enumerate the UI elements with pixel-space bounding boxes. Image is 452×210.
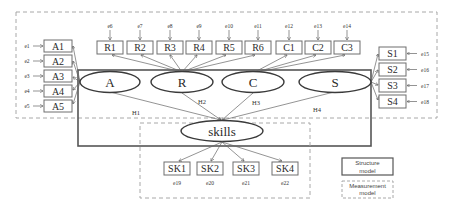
sem-diagram: A1 e1 A2 e2 A3 e3 A4 e4 A5 [0,0,452,210]
svg-text:e6: e6 [107,23,112,29]
svg-text:e22: e22 [281,180,289,186]
legend-measurement-model: Measurement model [342,181,393,198]
svg-text:e2: e2 [24,58,29,64]
svg-text:model: model [359,190,375,196]
svg-text:e20: e20 [206,180,214,186]
svg-text:skills: skills [208,124,235,139]
svg-text:C1: C1 [283,42,295,53]
svg-text:A1: A1 [52,41,64,52]
svg-text:S: S [331,75,338,90]
svg-text:e9: e9 [196,23,201,29]
indicator-a4: A4 e4 [24,82,80,97]
svg-text:e16: e16 [421,67,429,73]
svg-text:A3: A3 [52,71,64,82]
svg-text:C: C [249,75,258,90]
svg-text:S1: S1 [387,48,398,59]
indicator-sk3: SK3 e21 [222,142,259,186]
indicator-sk2: SK2 e20 [197,142,223,186]
svg-text:S2: S2 [387,64,398,75]
label-h2: H2 [198,98,206,105]
svg-text:R6: R6 [252,42,264,53]
svg-text:SK3: SK3 [237,163,255,174]
svg-text:A5: A5 [52,101,64,112]
svg-text:S4: S4 [387,96,398,107]
label-h1: H1 [132,109,140,116]
svg-text:R5: R5 [223,42,235,53]
svg-text:e14: e14 [343,23,351,29]
a-indicators: A1 e1 A2 e2 A3 e3 A4 e4 A5 [24,40,80,112]
path-h3 [222,93,253,120]
svg-text:e13: e13 [314,23,322,29]
svg-text:SK4: SK4 [276,163,294,174]
svg-text:e11: e11 [254,23,262,29]
svg-text:e17: e17 [421,83,429,89]
path-h1 [110,92,221,120]
svg-text:e4: e4 [24,88,29,94]
s-indicators: S1 e15 S2 e16 S3 e17 S4 e18 [371,47,429,108]
skills-indicators: SK1 e19 SK2 e20 SK3 e21 SK4 e22 [164,142,298,186]
svg-text:SK1: SK1 [168,163,186,174]
legend: Structure model Measurement model [342,158,393,198]
svg-text:C2: C2 [312,42,324,53]
svg-text:e19: e19 [173,180,181,186]
svg-text:A: A [105,75,115,90]
indicator-s3: S3 e17 [371,79,429,92]
svg-text:e7: e7 [137,23,142,29]
r-indicators: R1 e6 R2 e7 R3 e8 R4 e9 R5 [97,23,271,72]
label-h4: H4 [313,106,322,113]
svg-text:S3: S3 [387,80,398,91]
svg-text:R1: R1 [104,42,116,53]
legend-structure-model: Structure model [342,158,393,175]
svg-text:e1: e1 [24,43,29,49]
svg-text:R3: R3 [164,42,176,53]
indicator-r3: R3 e8 [157,23,183,72]
svg-text:R4: R4 [193,42,205,53]
latent-c: C [222,72,284,93]
svg-text:e10: e10 [225,23,233,29]
latent-s: S [299,72,371,93]
svg-text:model: model [359,168,375,174]
indicator-r4: R4 e9 [182,23,212,72]
svg-text:Structure: Structure [355,160,380,166]
svg-text:R: R [178,75,187,90]
latent-r: R [151,72,213,93]
indicator-a3: A3 e3 [24,70,80,82]
svg-text:e12: e12 [285,23,293,29]
svg-text:Measurement: Measurement [349,183,386,189]
svg-text:e8: e8 [167,23,172,29]
label-h3: H3 [252,99,260,106]
svg-text:e5: e5 [24,103,29,109]
svg-text:A2: A2 [52,56,64,67]
latent-skills: skills [181,121,263,142]
svg-text:C3: C3 [341,42,353,53]
svg-text:e3: e3 [24,73,29,79]
svg-text:e21: e21 [242,180,250,186]
svg-text:e15: e15 [421,51,429,57]
svg-text:SK2: SK2 [201,163,219,174]
svg-text:A4: A4 [52,86,64,97]
latent-a: A [80,72,140,93]
svg-text:e18: e18 [421,99,429,105]
structural-paths: H1 H2 H3 H4 [110,92,334,120]
svg-text:R2: R2 [134,42,146,53]
